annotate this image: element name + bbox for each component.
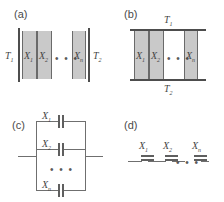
panel-a-right-electrode xyxy=(88,28,90,82)
panel-b-label-T2: T2 xyxy=(164,84,173,96)
panel-a: (a) T1 X1 X2 • • • Xn T2 xyxy=(0,0,112,101)
panel-a-label-X1: X1 xyxy=(24,51,33,63)
panel-c-left-rail xyxy=(36,121,37,190)
panel-c-label-X2: X2 xyxy=(42,139,51,151)
panel-c-capacitor-n xyxy=(58,184,63,197)
panel-b-label-Xn: Xn xyxy=(186,51,195,63)
panel-b-label-T1: T1 xyxy=(164,15,173,27)
panel-b-label-X2: X2 xyxy=(151,51,160,63)
panel-d-capacitor-1 xyxy=(141,155,149,168)
panel-d-capacitor-2 xyxy=(165,155,173,168)
panel-d-ellipsis: • • • xyxy=(176,158,200,168)
panel-c-letter: (c) xyxy=(12,119,25,131)
panel-a-left-electrode xyxy=(18,28,20,82)
panel-a-letter: (a) xyxy=(14,8,27,20)
panel-d-wire-1 xyxy=(148,161,166,162)
panel-d-label-Xn: Xn xyxy=(192,141,201,153)
panel-b-bottom-electrode xyxy=(130,79,206,81)
panel-c-branch1-wire-right xyxy=(64,121,86,122)
panel-c-capacitor-2 xyxy=(58,143,63,156)
panel-d-letter: (d) xyxy=(124,119,137,131)
panel-c-branch2-wire-right xyxy=(64,149,86,150)
panel-c-label-X1: X1 xyxy=(42,111,51,123)
panel-c-terminal-left xyxy=(18,156,36,157)
panel-c-capacitor-1 xyxy=(58,115,63,128)
panel-a-label-T2: T2 xyxy=(93,51,102,63)
panel-b-letter: (b) xyxy=(124,8,137,20)
panel-c-label-Xn: Xn xyxy=(42,180,51,192)
panel-a-label-Xn: Xn xyxy=(74,51,83,63)
panel-d-label-X2: X2 xyxy=(163,141,172,153)
panel-d-wire-0 xyxy=(128,161,142,162)
panel-c: (c) X1 X2 • • • Xn xyxy=(0,101,112,202)
figure-canvas: (a) T1 X1 X2 • • • Xn T2 (b) T1 xyxy=(0,0,224,202)
panel-c-terminal-right xyxy=(85,156,103,157)
panel-c-branchn-wire-right xyxy=(64,190,86,191)
panel-a-label-X2: X2 xyxy=(39,51,48,63)
panel-a-label-T1: T1 xyxy=(5,51,14,63)
panel-d: (d) • • • X1 X2 Xn xyxy=(112,101,224,202)
panel-b-label-X1: X1 xyxy=(136,51,145,63)
panel-b: (b) T1 T2 X1 X2 • • • Xn xyxy=(112,0,224,101)
panel-d-wire-3 xyxy=(201,161,209,162)
panel-c-ellipsis: • • • xyxy=(50,165,74,175)
panel-d-label-X1: X1 xyxy=(139,141,148,153)
